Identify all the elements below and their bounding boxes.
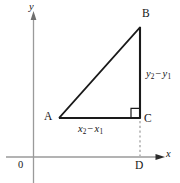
vertical-leg-expression: y2−y1 — [146, 69, 171, 80]
geometry-figure: y x 0 A B C D y2−y1 x2−x1 — [0, 0, 180, 183]
horizontal-leg-var-1: x — [78, 123, 83, 134]
horizontal-leg-expression: x2−x1 — [78, 124, 103, 135]
y-axis-label: y — [29, 2, 34, 13]
segment-ab-hypotenuse — [59, 27, 140, 117]
x-axis-label: x — [166, 149, 171, 160]
vertical-leg-operator: − — [154, 68, 162, 79]
origin-label: 0 — [18, 160, 23, 171]
horizontal-leg-sub-2: 1 — [99, 128, 103, 136]
figure-canvas — [0, 0, 180, 183]
vertex-label-d: D — [135, 160, 143, 172]
vertical-leg-sub-1: 2 — [151, 73, 155, 81]
horizontal-leg-operator: − — [86, 123, 94, 134]
vertical-leg-var-1: y — [146, 68, 151, 79]
right-angle-marker — [131, 108, 140, 117]
vertical-leg-sub-2: 1 — [167, 73, 171, 81]
vertex-label-b: B — [142, 8, 150, 20]
horizontal-leg-sub-1: 2 — [83, 128, 87, 136]
vertex-label-a: A — [44, 111, 52, 123]
x-axis-arrowhead — [156, 154, 166, 160]
vertex-label-c: C — [144, 113, 152, 125]
